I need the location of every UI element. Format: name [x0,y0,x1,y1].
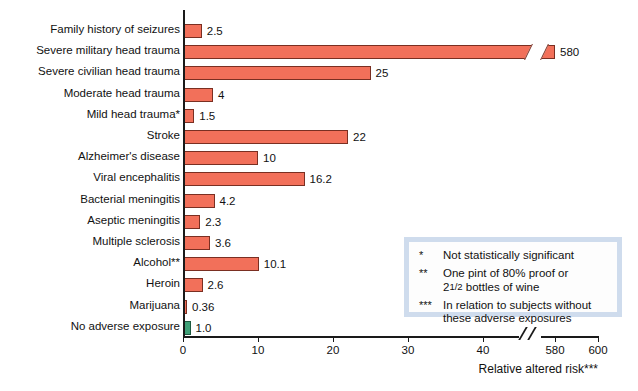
bar-value-label: 1.0 [196,321,212,335]
bar [183,194,215,208]
footnote-text-2: One pint of 80% proof or 21/2 bottles of… [443,267,568,294]
category-label: Family history of seizures [2,23,180,36]
footnote-marker-2: ** [419,267,443,294]
category-label: Moderate head trauma [2,87,180,100]
bar-value-label: 1.5 [199,109,215,123]
footnote-text-3: In relation to subjects without these ad… [443,299,591,325]
footnote-legend-box: * Not statistically significant ** One p… [404,237,622,317]
category-label: Alcohol** [2,256,180,269]
relative-altered-risk-bar-chart: Family history of seizuresSevere militar… [0,0,638,391]
x-tick-label: 20 [327,344,340,356]
bar-value-label: 2.3 [205,215,221,229]
category-label: No adverse exposure [2,320,180,333]
x-tick [598,336,599,342]
bar-value-label: 580 [560,45,579,59]
footnote-row-1: * Not statistically significant [419,249,609,262]
bar [183,88,213,102]
bar-value-label: 0.36 [192,300,214,314]
x-tick-label: 30 [402,344,415,356]
footnote-marker-1: * [419,249,443,262]
category-label: Mild head trauma* [2,108,180,121]
footnote-text-2-line1: One pint of 80% proof or [443,267,568,279]
x-tick [408,336,409,342]
y-axis-line [183,10,185,336]
category-label: Stroke [2,129,180,142]
category-label: Heroin [2,277,180,290]
category-label: Severe civilian head trauma [2,65,180,78]
bar [183,236,210,250]
footnote-row-2: ** One pint of 80% proof or 21/2 bottles… [419,267,609,294]
footnote-fraction: 1/2 [449,281,462,292]
x-tick [258,336,259,342]
x-tick [333,336,334,342]
category-label: Marijuana [2,299,180,312]
footnote-row-3: *** In relation to subjects without thes… [419,299,609,325]
bar-value-label: 4 [218,88,224,102]
bar-value-label: 10 [263,151,276,165]
bar [183,45,555,59]
bar [183,109,194,123]
category-label: Bacterial meningitis [2,193,180,206]
footnote-marker-3: *** [419,299,443,325]
x-axis-title: Relative altered risk*** [479,362,598,376]
bar [183,24,202,38]
x-tick-label: 580 [545,344,564,356]
category-label: Alzheimer's disease [2,150,180,163]
bar-value-label: 16.2 [310,172,332,186]
bar [183,257,259,271]
bar-value-label: 3.6 [215,236,231,250]
footnote-text-3-line2: these adverse exposures [443,312,572,324]
bar [183,130,348,144]
bar-value-label: 4.2 [220,194,236,208]
bar-value-label: 25 [376,66,389,80]
bar [183,215,200,229]
bar-value-label: 22 [353,130,366,144]
category-label: Viral encephalitis [2,171,180,184]
bar [183,66,371,80]
category-label: Multiple sclerosis [2,235,180,248]
footnote-text-1: Not statistically significant [443,249,574,262]
bar-value-label: 10.1 [264,257,286,271]
x-tick-label: 600 [588,344,607,356]
bar [183,151,258,165]
footnote-text-3-line1: In relation to subjects without [443,299,591,311]
x-tick-label: 40 [477,344,490,356]
bar [183,172,305,186]
category-label: Aseptic meningitis [2,214,180,227]
x-tick [555,336,556,342]
x-tick-label: 10 [252,344,265,356]
bar [183,278,203,292]
x-tick-label: 0 [180,344,186,356]
category-label: Severe military head trauma [2,44,180,57]
x-tick [483,336,484,342]
footnote-text-2-line2: bottles of wine [466,281,540,293]
bar-value-label: 2.6 [208,278,224,292]
bar-value-label: 2.5 [207,24,223,38]
x-tick [183,336,184,342]
